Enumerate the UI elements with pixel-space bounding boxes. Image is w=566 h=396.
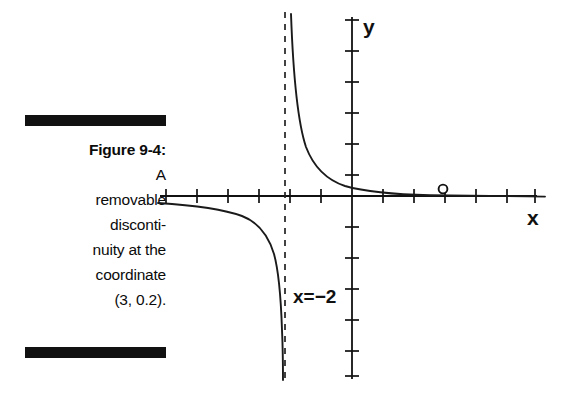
x-axis-label: x [527, 206, 539, 229]
graph-svg: y x x=−2 [0, 0, 566, 396]
hyperbola-lower-branch [158, 203, 283, 380]
figure-page: Figure 9-4: A removable disconti- nuity … [0, 0, 566, 396]
graph-figure: y x x=−2 [0, 0, 566, 396]
asymptote-label: x=−2 [293, 286, 336, 307]
hyperbola-upper-branch [291, 14, 545, 197]
removable-discontinuity-hole [439, 185, 448, 194]
y-axis-label: y [363, 15, 375, 38]
